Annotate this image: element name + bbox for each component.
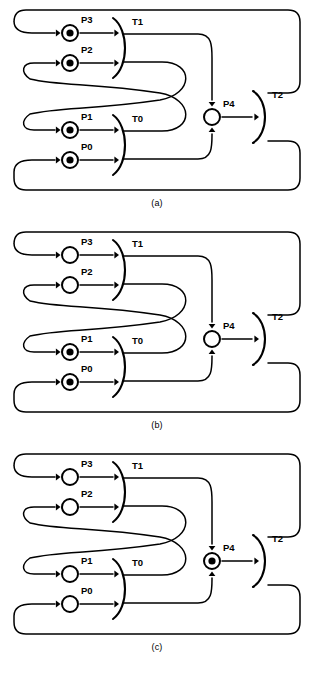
place-circle xyxy=(62,499,78,515)
transition-label-t1: T1 xyxy=(132,238,144,249)
panel-caption-c: (c) xyxy=(0,642,314,652)
place-circle xyxy=(62,247,78,263)
arc-t0-to-p2 xyxy=(24,285,186,353)
petri-net-diagram-b: P3P2P1P0P4T1T0T2 xyxy=(0,222,314,427)
arc-t0-to-p4 xyxy=(124,356,212,381)
arc-t1-to-p1 xyxy=(24,284,186,352)
place-label-p2: P2 xyxy=(81,266,93,277)
place-p1-a xyxy=(62,122,78,138)
transition-t0 xyxy=(113,559,125,619)
place-label-p4: P4 xyxy=(223,542,235,553)
petri-net-panel-c: P3P2P1P0P4T1T0T2(c) xyxy=(0,444,314,649)
panel-caption-a: (a) xyxy=(0,198,314,208)
arc-t0-to-p2 xyxy=(24,63,186,131)
transition-label-t0: T0 xyxy=(132,335,143,346)
transition-t1 xyxy=(113,240,125,300)
petri-net-diagram-a: P3P2P1P0P4T1T0T2 xyxy=(0,0,314,205)
place-label-p1: P1 xyxy=(81,555,93,566)
place-p2-c xyxy=(62,499,78,515)
place-p2-b xyxy=(62,277,78,293)
place-circle xyxy=(62,566,78,582)
token-dot xyxy=(66,378,73,385)
token-dot xyxy=(66,348,73,355)
arc-t1-to-p1 xyxy=(24,62,186,130)
arc-t2-to-p0 xyxy=(14,363,300,412)
token-dot xyxy=(66,29,73,36)
place-circle xyxy=(62,277,78,293)
place-label-p2: P2 xyxy=(81,44,93,55)
place-p2-a xyxy=(62,55,78,71)
place-label-p2: P2 xyxy=(81,488,93,499)
transition-label-t0: T0 xyxy=(132,557,143,568)
place-p1-c xyxy=(62,566,78,582)
arc-t2-to-p0 xyxy=(14,141,300,190)
arc-t1-to-p1 xyxy=(24,506,186,574)
place-p4-b xyxy=(204,331,220,347)
place-p3-b xyxy=(62,247,78,263)
transition-t1 xyxy=(113,462,125,522)
place-circle xyxy=(204,109,220,125)
place-p4-a xyxy=(204,109,220,125)
arc-t0-to-p2 xyxy=(24,507,186,575)
place-label-p0: P0 xyxy=(81,585,93,596)
arc-t2-to-p3 xyxy=(14,10,300,93)
petri-net-panel-a: P3P2P1P0P4T1T0T2(a) xyxy=(0,0,314,205)
place-label-p1: P1 xyxy=(81,333,93,344)
petri-net-diagram-c: P3P2P1P0P4T1T0T2 xyxy=(0,444,314,649)
transition-label-t2: T2 xyxy=(272,89,283,100)
arc-t2-to-p3 xyxy=(14,232,300,315)
token-dot xyxy=(66,126,73,133)
place-label-p3: P3 xyxy=(81,14,93,25)
transition-t0 xyxy=(113,337,125,397)
place-label-p4: P4 xyxy=(223,320,235,331)
place-label-p0: P0 xyxy=(81,363,93,374)
transition-t0 xyxy=(113,115,125,175)
place-p4-c xyxy=(204,553,220,569)
token-dot xyxy=(66,156,73,163)
transition-label-t1: T1 xyxy=(132,16,144,27)
place-label-p3: P3 xyxy=(81,236,93,247)
place-label-p0: P0 xyxy=(81,141,93,152)
arc-t0-to-p4 xyxy=(124,134,212,159)
place-label-p3: P3 xyxy=(81,458,93,469)
place-p0-a xyxy=(62,152,78,168)
token-dot xyxy=(66,59,73,66)
arc-t0-to-p4 xyxy=(124,578,212,603)
arc-t2-to-p0 xyxy=(14,585,300,634)
figure-root: P3P2P1P0P4T1T0T2(a)P3P2P1P0P4T1T0T2(b)P3… xyxy=(0,0,314,677)
place-p0-c xyxy=(62,596,78,612)
place-label-p4: P4 xyxy=(223,98,235,109)
transition-label-t1: T1 xyxy=(132,460,144,471)
panel-caption-b: (b) xyxy=(0,420,314,430)
place-circle xyxy=(62,596,78,612)
transition-label-t2: T2 xyxy=(272,311,283,322)
token-dot xyxy=(208,557,215,564)
transition-label-t2: T2 xyxy=(272,533,283,544)
transition-label-t0: T0 xyxy=(132,113,143,124)
transition-t1 xyxy=(113,18,125,78)
place-p1-b xyxy=(62,344,78,360)
petri-net-panel-b: P3P2P1P0P4T1T0T2(b) xyxy=(0,222,314,427)
place-p0-b xyxy=(62,374,78,390)
place-label-p1: P1 xyxy=(81,111,93,122)
place-circle xyxy=(62,469,78,485)
place-p3-c xyxy=(62,469,78,485)
place-p3-a xyxy=(62,25,78,41)
place-circle xyxy=(204,331,220,347)
arc-t2-to-p3 xyxy=(14,454,300,537)
